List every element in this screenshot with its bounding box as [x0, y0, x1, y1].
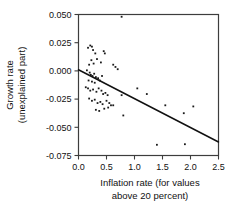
data-point [102, 93, 104, 95]
x-tick-label: 1.0 [128, 162, 141, 172]
data-point [95, 109, 97, 111]
y-axis-ticks: 0.0500.0250.000-0.025-0.050-0.075 [46, 10, 79, 161]
data-point [107, 107, 109, 109]
data-point [183, 112, 185, 114]
data-point [100, 62, 102, 64]
data-point [90, 59, 92, 61]
data-point [91, 100, 93, 102]
data-point [164, 104, 166, 106]
data-point [88, 98, 90, 100]
y-tick-label: 0.000 [49, 66, 72, 76]
data-point [112, 104, 114, 106]
data-point [89, 45, 91, 47]
x-tick-label: 2.0 [184, 162, 197, 172]
x-axis-title-line1: Inflation rate (for values [100, 177, 200, 188]
data-point [93, 73, 95, 75]
data-point [89, 72, 91, 74]
data-point [93, 63, 95, 65]
y-tick-label: -0.050 [46, 123, 72, 133]
data-point [94, 99, 96, 101]
data-point [108, 102, 110, 104]
data-point [117, 68, 119, 70]
x-tick-label: 2.5 [212, 162, 225, 172]
data-point [156, 144, 158, 146]
data-point [192, 106, 194, 108]
data-point [88, 64, 90, 66]
data-point [85, 86, 87, 88]
x-tick-label: 0.5 [100, 162, 113, 172]
data-point [107, 94, 109, 96]
data-point [106, 100, 108, 102]
data-point [115, 66, 117, 68]
data-point [96, 91, 98, 93]
data-point [88, 80, 90, 82]
data-point [101, 90, 103, 92]
y-tick-label: 0.025 [49, 38, 72, 48]
data-point [99, 101, 101, 103]
chart-canvas: 0.0500.0250.000-0.025-0.050-0.075 0.00.5… [0, 0, 234, 209]
y-tick-label: -0.075 [46, 151, 72, 161]
regression-line [79, 70, 219, 142]
data-point [103, 50, 105, 52]
data-point [91, 46, 93, 48]
data-point [89, 90, 91, 92]
data-point [121, 16, 123, 18]
data-point [91, 81, 93, 83]
x-axis-title-line2: above 20 percent) [112, 190, 189, 201]
scatter-plot-figure: 0.0500.0250.000-0.025-0.050-0.075 0.00.5… [0, 0, 234, 209]
data-point [96, 58, 98, 60]
data-point [92, 89, 94, 91]
data-point [104, 53, 106, 55]
data-point [103, 108, 105, 110]
data-point [121, 94, 123, 96]
data-point [112, 64, 114, 66]
data-point [136, 87, 138, 89]
data-point [102, 103, 104, 105]
data-point [146, 93, 148, 95]
data-point [92, 49, 94, 51]
data-point [86, 69, 88, 71]
x-tick-label: 0.0 [72, 162, 85, 172]
data-point [184, 143, 186, 145]
data-point [122, 115, 124, 117]
x-axis-ticks: 0.00.51.01.52.02.5 [72, 156, 225, 172]
data-point [98, 110, 100, 112]
plot-frame [79, 15, 219, 156]
y-axis-title-line1: Growth rate [4, 60, 15, 110]
data-point [101, 75, 103, 77]
y-axis-title-line2: (unexplained part) [16, 47, 27, 124]
data-point [104, 92, 106, 94]
y-tick-label: -0.025 [46, 94, 72, 104]
data-point [94, 82, 96, 84]
data-point [98, 87, 100, 89]
data-point [94, 53, 96, 55]
data-point [87, 87, 89, 89]
data-point [87, 47, 89, 49]
data-point [110, 104, 112, 106]
data-point [97, 102, 99, 104]
x-tick-label: 1.5 [156, 162, 169, 172]
y-tick-label: 0.050 [49, 10, 72, 20]
